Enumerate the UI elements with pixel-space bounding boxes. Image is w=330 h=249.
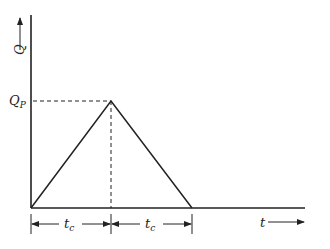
x-axis-label: t <box>260 215 266 230</box>
peak-label: QP <box>9 93 27 110</box>
recession-time-label: tc <box>145 216 155 233</box>
y-axis-label: Q <box>12 44 27 55</box>
rise-time-label: tc <box>64 216 74 233</box>
hydrograph-diagram: Q QP tc tc t <box>0 0 330 249</box>
